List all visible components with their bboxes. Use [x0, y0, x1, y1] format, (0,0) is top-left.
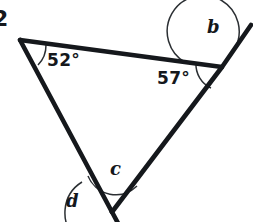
angle-label-57: 57°: [157, 70, 190, 87]
angle-label-52: 52°: [47, 52, 80, 69]
angle-label-c: c: [110, 160, 121, 178]
geometry-figure: 2 52° 57° b c d: [0, 0, 253, 222]
question-number: 2: [0, 8, 8, 30]
angle-label-b: b: [207, 18, 220, 36]
angle-label-d: d: [66, 192, 79, 210]
ray-extension-bottom: [112, 212, 126, 222]
angle-arc-52: [38, 45, 46, 65]
angle-arc-b: [167, 0, 239, 63]
